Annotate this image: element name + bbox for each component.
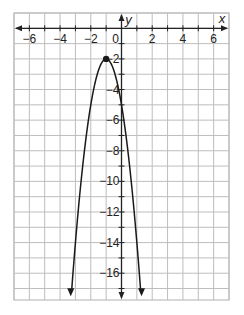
parabola-graph: −6−4−20246−2−4−6−8−10−12−14−16xy	[0, 0, 244, 315]
x-tick-label: 2	[149, 32, 156, 46]
y-axis-label: y	[124, 12, 133, 27]
x-tick-label: −4	[53, 32, 67, 46]
y-tick-label: −10	[99, 174, 120, 188]
y-tick-label: −6	[106, 113, 120, 127]
x-axis-label: x	[218, 11, 226, 26]
y-tick-label: −12	[99, 205, 120, 219]
x-tick-label: −6	[23, 32, 37, 46]
vertex-point	[103, 56, 109, 62]
y-tick-label: −16	[99, 266, 120, 280]
tick-labels: −6−4−20246−2−4−6−8−10−12−14−16xy	[23, 11, 226, 280]
x-tick-label: 4	[180, 32, 187, 46]
x-tick-label: −2	[84, 32, 98, 46]
y-axis-up-arrow-icon	[119, 14, 125, 21]
x-axis-left-arrow-icon	[15, 25, 22, 31]
curve-arrow-icon	[67, 288, 74, 296]
y-tick-label: −8	[106, 144, 120, 158]
axes	[15, 14, 228, 299]
y-tick-label: −14	[99, 236, 120, 250]
y-axis-down-arrow-icon	[119, 292, 125, 299]
x-tick-label: 6	[210, 32, 217, 46]
curve-arrow-icon	[138, 288, 145, 296]
vertex-dot	[103, 56, 109, 62]
x-tick-label: 0	[112, 32, 119, 46]
